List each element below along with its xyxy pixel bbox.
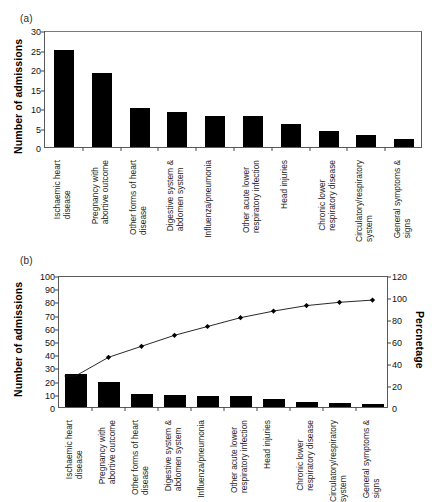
line-marker xyxy=(238,315,243,320)
bar xyxy=(319,131,339,147)
category-label: Digestive system & abdomen system xyxy=(164,420,183,491)
category-label: Head injuries xyxy=(280,160,290,209)
panel-b: (b) Number of admissions Percnetage 0102… xyxy=(0,250,435,496)
category-label: Ischaemic heart disease xyxy=(53,160,72,219)
category-label: Pregnancy with abortive outcome xyxy=(91,160,110,224)
category-label: General symptoms & signs xyxy=(362,420,381,498)
y-tick-label: 0 xyxy=(50,405,59,414)
bar xyxy=(167,112,187,147)
bar xyxy=(205,116,225,147)
line-marker xyxy=(172,333,177,338)
x-tick-mark xyxy=(234,147,235,151)
category-label: Digestive system & abdomen system xyxy=(166,160,185,231)
panel-b-y-axis-label-right: Percnetage xyxy=(414,295,426,385)
panel-a-y-axis-label: Number of admissions xyxy=(12,36,24,156)
bar xyxy=(394,139,414,147)
line-marker xyxy=(106,355,111,360)
line-marker xyxy=(370,298,375,303)
bar xyxy=(130,108,150,147)
category-label: Chronic lower respiratory disease xyxy=(318,160,337,231)
x-tick-mark xyxy=(385,147,386,151)
bar xyxy=(281,124,301,147)
bar xyxy=(54,50,74,148)
cumulative-line-path xyxy=(76,300,373,376)
x-tick-mark xyxy=(158,147,159,151)
y-tick-mark xyxy=(41,51,45,52)
panel-b-plot-area: 0102030405060708090100 020406080100120 xyxy=(58,276,388,408)
x-tick-mark xyxy=(82,147,83,151)
line-marker xyxy=(205,324,210,329)
y-tick-label: 0 xyxy=(36,145,45,154)
y-tick-mark xyxy=(41,90,45,91)
category-label: Other forms of heart disease xyxy=(129,160,148,235)
category-label: Ischaemic heart disease xyxy=(65,420,84,479)
x-tick-mark xyxy=(196,147,197,151)
category-label: Other forms of heart disease xyxy=(131,420,150,495)
panel-b-tag: (b) xyxy=(20,255,33,266)
y-tick-mark xyxy=(41,32,45,33)
category-label: General symptoms & signs xyxy=(393,160,412,238)
category-label: Head injuries xyxy=(263,420,273,469)
category-label: Circulatory/respiratory system xyxy=(355,160,374,242)
panel-a-plot-area: 051015202530 xyxy=(44,31,422,148)
cumulative-percentage-line xyxy=(59,277,389,409)
panel-a: (a) Number of admissions 051015202530 Is… xyxy=(0,0,435,250)
bar xyxy=(243,116,263,147)
category-label: Influenza/pneumonia xyxy=(204,160,214,238)
line-marker xyxy=(271,309,276,314)
line-marker xyxy=(139,344,144,349)
category-label: Pregnancy with abortive outcome xyxy=(98,420,117,484)
y-tick-mark xyxy=(41,110,45,111)
category-label: Influenza/pneumonia xyxy=(197,420,207,498)
x-tick-mark xyxy=(271,147,272,151)
x-tick-mark xyxy=(120,147,121,151)
x-tick-mark xyxy=(309,147,310,151)
category-label: Other acute lower respiratory infection xyxy=(230,420,249,493)
category-label: Chronic lower respiratory disease xyxy=(296,420,315,491)
y-tick-mark xyxy=(41,71,45,72)
category-label: Other acute lower respiratory infection xyxy=(242,160,261,233)
bar xyxy=(92,73,112,147)
category-label: Circulatory/respiratory system xyxy=(329,420,348,502)
panel-a-tag: (a) xyxy=(20,13,33,24)
line-marker xyxy=(337,300,342,305)
y-tick-mark xyxy=(41,129,45,130)
panel-b-y-axis-label-left: Number of admissions xyxy=(12,278,24,400)
line-marker xyxy=(304,303,309,308)
bar xyxy=(356,135,376,147)
x-tick-mark xyxy=(347,147,348,151)
